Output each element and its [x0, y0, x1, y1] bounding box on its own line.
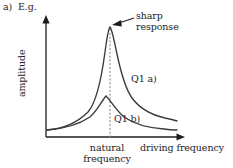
high-q-resonance-curve	[47, 27, 177, 130]
low-q-resonance-curve	[47, 96, 177, 130]
annotation-arrow	[112, 18, 134, 27]
curve-a-label: Q1 a)	[131, 74, 157, 85]
resonance-diagram: a) E.g. sharp response Q1 a) Q1 b) ampli…	[0, 0, 233, 168]
x-axis	[46, 133, 185, 140]
item-label: a) E.g.	[3, 2, 37, 13]
y-axis	[42, 15, 49, 137]
sharp-response-annotation-label: sharp response	[136, 11, 179, 32]
x-axis-label: driving frequency	[140, 143, 224, 154]
y-axis-label: amplitude	[17, 40, 28, 106]
natural-frequency-label: natural frequency	[76, 143, 138, 164]
curve-b-label: Q1 b)	[114, 114, 140, 125]
